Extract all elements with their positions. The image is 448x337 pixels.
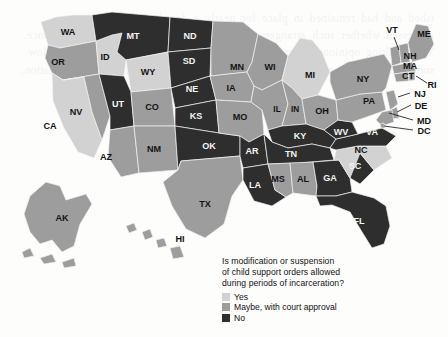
legend-item-no: No xyxy=(222,313,418,323)
state-label-ND: ND xyxy=(183,31,197,41)
state-label-MD: MD xyxy=(417,116,432,126)
state-label-AZ: AZ xyxy=(100,152,113,162)
legend-label-no: No xyxy=(234,313,245,323)
state-label-OH: OH xyxy=(315,106,329,116)
state-label-LA: LA xyxy=(249,180,262,190)
state-label-NY: NY xyxy=(357,74,370,84)
leader-line-DC xyxy=(384,126,413,130)
state-label-IN: IN xyxy=(291,105,299,114)
state-label-CT: CT xyxy=(402,71,415,81)
state-label-FL: FL xyxy=(353,216,365,226)
state-label-NH: NH xyxy=(403,51,416,61)
state-label-DE: DE xyxy=(415,101,428,111)
legend-title-line-3: during periods of incarceration? xyxy=(222,278,418,289)
state-label-KS: KS xyxy=(190,111,203,121)
state-label-ME: ME xyxy=(417,29,431,39)
legend-label-maybe: Maybe, with court approval xyxy=(234,302,337,312)
state-label-PA: PA xyxy=(363,96,375,106)
legend-item-maybe: Maybe, with court approval xyxy=(222,302,418,312)
state-label-NJ: NJ xyxy=(414,89,426,99)
state-label-IA: IA xyxy=(226,83,236,93)
state-label-MI: MI xyxy=(305,70,315,80)
state-label-RI: RI xyxy=(427,80,436,90)
leader-line-NJ xyxy=(398,93,410,97)
us-choropleth-figure: WA OR CA NV ID MT WY UT CO AZ NM ND SD N… xyxy=(0,0,448,337)
state-label-AL: AL xyxy=(297,174,310,184)
state-label-WI: WI xyxy=(264,62,275,72)
state-label-AR: AR xyxy=(245,146,259,156)
state-label-NC: NC xyxy=(354,145,368,155)
state-label-SC: SC xyxy=(349,161,362,171)
state-label-CO: CO xyxy=(145,102,159,112)
state-AZ[interactable] xyxy=(108,126,139,177)
legend-swatch-no xyxy=(222,314,230,322)
state-label-WA: WA xyxy=(61,27,76,37)
state-label-ID: ID xyxy=(100,52,110,62)
state-label-MO: MO xyxy=(233,112,248,122)
state-label-DC: DC xyxy=(417,126,431,136)
state-label-AK: AK xyxy=(55,213,69,223)
legend-swatch-yes xyxy=(222,293,230,301)
state-label-WV: WV xyxy=(334,127,349,137)
state-label-OK: OK xyxy=(202,141,216,151)
leader-line-DE xyxy=(397,105,411,112)
legend-item-yes: Yes xyxy=(222,292,418,302)
state-label-TX: TX xyxy=(199,199,211,209)
state-label-MA: MA xyxy=(403,61,418,71)
state-label-UT: UT xyxy=(112,99,125,109)
state-DC[interactable] xyxy=(380,123,385,128)
legend-title: Is modification or suspension of child s… xyxy=(222,256,418,289)
legend-title-line-2: of child support orders allowed xyxy=(222,267,418,278)
state-label-MT: MT xyxy=(126,31,140,41)
state-label-NM: NM xyxy=(147,144,161,154)
state-label-NE: NE xyxy=(186,84,199,94)
state-label-MS: MS xyxy=(271,174,285,184)
state-label-HI: HI xyxy=(175,234,184,244)
leader-line-RI xyxy=(416,76,427,83)
state-label-GA: GA xyxy=(323,173,337,183)
state-label-CA: CA xyxy=(43,121,57,131)
legend-label-yes: Yes xyxy=(234,292,248,302)
state-label-IL: IL xyxy=(273,105,280,114)
state-label-VA: VA xyxy=(366,127,378,137)
state-label-KY: KY xyxy=(294,131,307,141)
state-label-VT: VT xyxy=(386,25,398,35)
state-AK[interactable] xyxy=(22,182,92,268)
state-label-WY: WY xyxy=(141,67,156,77)
state-label-MN: MN xyxy=(230,62,244,72)
legend-swatch-maybe xyxy=(222,303,230,311)
state-label-SD: SD xyxy=(183,56,196,66)
map-legend: Is modification or suspension of child s… xyxy=(222,256,418,323)
state-label-TN: TN xyxy=(285,149,297,159)
state-label-OR: OR xyxy=(51,57,65,67)
state-label-NV: NV xyxy=(70,107,83,117)
legend-title-line-1: Is modification or suspension xyxy=(222,256,418,267)
